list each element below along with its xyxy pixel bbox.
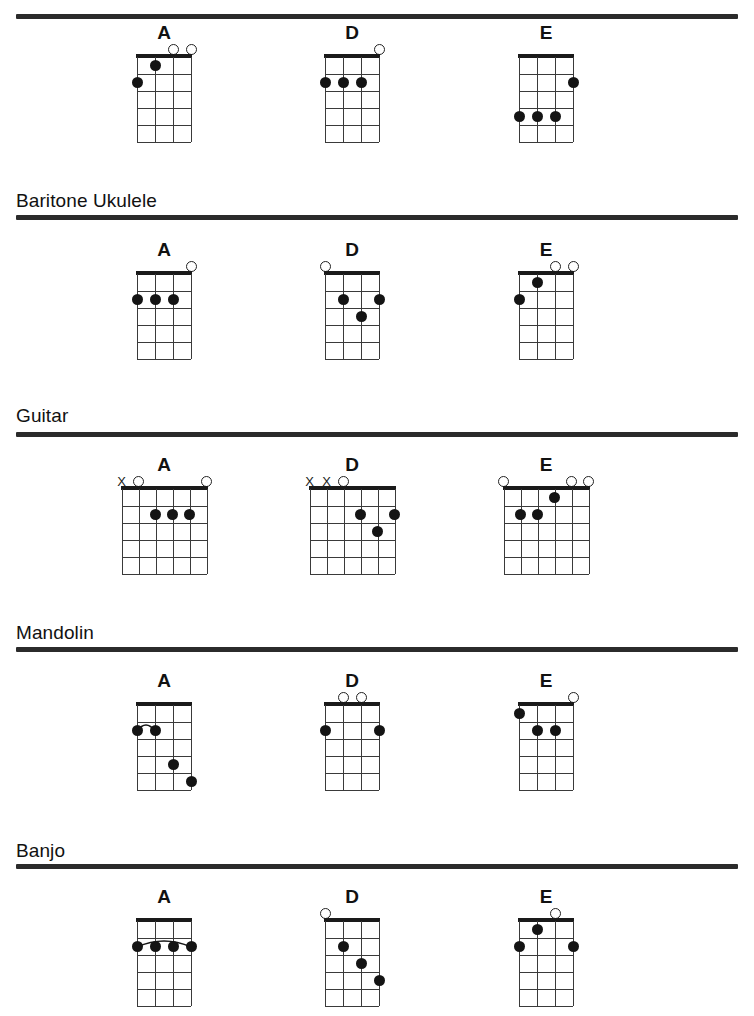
fret-line bbox=[325, 1006, 379, 1007]
finger-dot bbox=[150, 294, 161, 305]
fret-line bbox=[325, 938, 379, 939]
chord-name: D bbox=[270, 454, 435, 476]
nut bbox=[324, 54, 380, 58]
fret-line bbox=[519, 955, 573, 956]
finger-dot bbox=[514, 294, 525, 305]
string-line bbox=[555, 705, 556, 790]
finger-dot bbox=[168, 759, 179, 770]
string-line bbox=[122, 489, 123, 574]
string-line bbox=[191, 57, 192, 142]
finger-dot bbox=[374, 294, 385, 305]
finger-dot bbox=[532, 277, 543, 288]
finger-dot bbox=[549, 492, 560, 503]
fret-line bbox=[325, 308, 379, 309]
fret-line bbox=[519, 739, 573, 740]
fret-line bbox=[137, 142, 191, 143]
string-line bbox=[519, 274, 520, 359]
section-rule bbox=[16, 647, 738, 652]
fret-line bbox=[310, 523, 395, 524]
finger-dot bbox=[515, 509, 526, 520]
finger-dot bbox=[532, 509, 543, 520]
fretboard bbox=[519, 921, 573, 1006]
string-line bbox=[343, 705, 344, 790]
finger-dot bbox=[184, 509, 195, 520]
fret-line bbox=[137, 325, 191, 326]
fretboard bbox=[519, 57, 573, 142]
finger-dot bbox=[132, 725, 143, 736]
string-line bbox=[521, 489, 522, 574]
nut bbox=[518, 702, 574, 706]
nut bbox=[324, 271, 380, 275]
string-line bbox=[504, 489, 505, 574]
finger-dot bbox=[150, 60, 161, 71]
string-line bbox=[190, 489, 191, 574]
chord-diagram-D: D bbox=[285, 670, 419, 815]
string-line bbox=[327, 489, 328, 574]
string-line bbox=[173, 57, 174, 142]
nut bbox=[518, 54, 574, 58]
fret-line bbox=[504, 557, 589, 558]
fret-line bbox=[122, 557, 207, 558]
fret-line bbox=[519, 91, 573, 92]
finger-dot bbox=[356, 311, 367, 322]
fretboard bbox=[310, 489, 395, 574]
chord-name: A bbox=[97, 22, 231, 44]
fret-line bbox=[325, 359, 379, 360]
fret-line bbox=[325, 773, 379, 774]
nut bbox=[518, 271, 574, 275]
nut bbox=[324, 918, 380, 922]
nut bbox=[324, 702, 380, 706]
chord-name: A bbox=[97, 239, 231, 261]
string-line bbox=[156, 489, 157, 574]
fret-line bbox=[137, 790, 191, 791]
finger-dot bbox=[374, 975, 385, 986]
finger-dot bbox=[320, 77, 331, 88]
string-line bbox=[379, 274, 380, 359]
fret-line bbox=[519, 1006, 573, 1007]
fret-line bbox=[325, 955, 379, 956]
finger-dot bbox=[356, 77, 367, 88]
fret-line bbox=[504, 574, 589, 575]
chord-name: E bbox=[479, 670, 613, 692]
fret-line bbox=[137, 989, 191, 990]
string-line bbox=[344, 489, 345, 574]
fret-line bbox=[122, 506, 207, 507]
fret-line bbox=[137, 1006, 191, 1007]
fretboard bbox=[137, 57, 191, 142]
fret-line bbox=[137, 108, 191, 109]
fret-line bbox=[325, 125, 379, 126]
chord-diagram-E: E bbox=[479, 886, 613, 1016]
string-line bbox=[573, 274, 574, 359]
fret-line bbox=[325, 739, 379, 740]
fret-line bbox=[122, 523, 207, 524]
section-rule bbox=[16, 864, 738, 869]
chord-diagram-E: E bbox=[479, 239, 613, 384]
string-line bbox=[325, 705, 326, 790]
finger-dot bbox=[338, 941, 349, 952]
fret-line bbox=[504, 540, 589, 541]
finger-dot bbox=[132, 294, 143, 305]
fret-line bbox=[519, 756, 573, 757]
string-line bbox=[325, 921, 326, 1006]
finger-dot bbox=[514, 708, 525, 719]
chord-diagram-E: E bbox=[464, 454, 629, 599]
nut bbox=[136, 918, 192, 922]
string-line bbox=[343, 57, 344, 142]
chord-name: A bbox=[97, 670, 231, 692]
finger-dot bbox=[514, 941, 525, 952]
finger-dot bbox=[132, 941, 143, 952]
fret-line bbox=[519, 325, 573, 326]
finger-dot bbox=[168, 941, 179, 952]
fret-line bbox=[325, 74, 379, 75]
chord-diagram-A: AX bbox=[82, 454, 247, 599]
nut bbox=[518, 918, 574, 922]
fret-line bbox=[504, 523, 589, 524]
fret-line bbox=[519, 989, 573, 990]
fret-line bbox=[325, 91, 379, 92]
fret-line bbox=[325, 989, 379, 990]
fret-line bbox=[519, 359, 573, 360]
fret-line bbox=[325, 722, 379, 723]
fretboard bbox=[122, 489, 207, 574]
fret-line bbox=[325, 342, 379, 343]
nut bbox=[136, 702, 192, 706]
